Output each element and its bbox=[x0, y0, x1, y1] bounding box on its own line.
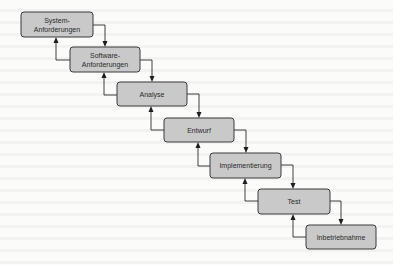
phase-implementierung: Implementierung bbox=[210, 153, 281, 178]
arrowhead-down-icon bbox=[197, 112, 202, 118]
phase-label-line: Anforderungen bbox=[82, 61, 128, 69]
arrow-feedback-4 bbox=[198, 147, 210, 166]
phase-test: Test bbox=[258, 189, 330, 214]
phase-label: Entwurf bbox=[187, 127, 211, 134]
waterfall-diagram: System- Anforderungen Software- Anforder… bbox=[0, 0, 393, 265]
arrowhead-down-icon bbox=[103, 41, 108, 47]
arrow-forward-3 bbox=[187, 94, 199, 113]
arrowhead-down-icon bbox=[150, 76, 155, 82]
arrowhead-down-icon bbox=[244, 147, 249, 153]
phase-software-anforderungen: Software- Anforderungen bbox=[70, 47, 140, 72]
arrowhead-up-icon bbox=[102, 72, 107, 78]
arrow-feedback-2 bbox=[104, 77, 117, 95]
arrowhead-up-icon bbox=[291, 214, 296, 220]
arrow-feedback-1 bbox=[56, 42, 70, 60]
phase-analyse: Analyse bbox=[117, 82, 187, 106]
arrow-forward-2 bbox=[140, 60, 152, 77]
phase-inbetriebnahme: Inbetriebnahme bbox=[306, 225, 376, 249]
arrow-forward-4 bbox=[234, 130, 246, 148]
arrowhead-up-icon bbox=[243, 178, 248, 184]
phase-label: Implementierung bbox=[219, 162, 271, 170]
phase-label: Inbetriebnahme bbox=[317, 234, 366, 241]
phase-label-line: System- bbox=[44, 17, 70, 25]
phase-label: Analyse bbox=[140, 91, 165, 99]
phase-label: Test bbox=[288, 198, 301, 205]
arrowhead-up-icon bbox=[54, 37, 59, 43]
arrowhead-down-icon bbox=[339, 219, 344, 225]
phase-system-anforderungen: System- Anforderungen bbox=[21, 12, 93, 37]
phase-label-line: Software- bbox=[90, 52, 121, 59]
phase-label-line: Anforderungen bbox=[34, 26, 80, 34]
arrow-feedback-5 bbox=[245, 183, 258, 201]
arrow-forward-6 bbox=[330, 201, 341, 220]
diagram-canvas: System- Anforderungen Software- Anforder… bbox=[0, 0, 393, 265]
arrowhead-up-icon bbox=[196, 142, 201, 148]
arrow-feedback-6 bbox=[293, 219, 306, 237]
phase-entwurf: Entwurf bbox=[164, 118, 234, 142]
arrowhead-down-icon bbox=[291, 183, 296, 189]
arrow-forward-1 bbox=[93, 25, 105, 42]
arrow-forward-5 bbox=[281, 165, 293, 184]
arrowhead-up-icon bbox=[149, 106, 154, 112]
arrow-feedback-3 bbox=[151, 111, 164, 130]
